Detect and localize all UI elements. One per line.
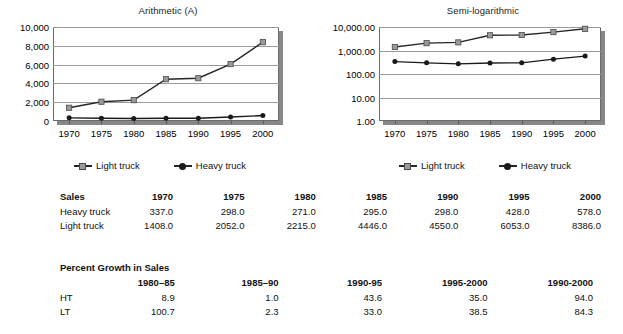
table-row: Light truck1408.02052.02215.04446.04550.… — [60, 219, 623, 234]
data-point-marker — [551, 30, 556, 35]
legend-item-heavy-truck: Heavy truck — [174, 160, 246, 171]
legend-label: Light truck — [96, 160, 140, 171]
chart-semilog-title: Semi-logarithmic — [325, 5, 623, 16]
x-axis-tick-mark — [427, 121, 428, 124]
x-axis-tick-mark — [69, 121, 70, 124]
data-point-marker — [424, 41, 429, 46]
light-truck-marker-icon — [74, 161, 92, 170]
table-cell: 84.3 — [517, 305, 623, 320]
table-corner-header: Sales — [60, 190, 124, 205]
table-cell: 6053.0 — [480, 219, 551, 234]
column-header: 1975 — [195, 190, 266, 205]
column-header: 1970 — [124, 190, 195, 205]
table-cell: 38.5 — [412, 305, 518, 320]
x-axis-tick-label: 2000 — [252, 128, 273, 139]
data-point-marker — [551, 57, 556, 62]
table-cell: 35.0 — [412, 291, 518, 306]
data-point-marker — [228, 62, 233, 67]
row-label: Light truck — [60, 219, 124, 234]
data-point-marker — [583, 26, 588, 31]
column-header: 2000 — [552, 190, 623, 205]
heavy-truck-marker-icon — [174, 161, 192, 170]
x-axis-tick-mark — [231, 121, 232, 124]
y-axis-tick-label: 2,000 — [25, 97, 49, 108]
column-header: 1990 — [409, 190, 480, 205]
data-point-marker — [519, 60, 524, 65]
sales-table: Sales1970197519801985199019952000 Heavy … — [60, 190, 623, 234]
growth-table-caption: Percent Growth in Sales — [60, 262, 169, 273]
data-point-marker — [456, 61, 461, 66]
table-cell: 33.0 — [309, 305, 412, 320]
x-axis-tick-label: 1970 — [59, 128, 80, 139]
data-point-marker — [424, 60, 429, 65]
table-cell: 295.0 — [338, 205, 409, 220]
chart-arithmetic-title: Arithmetic (A) — [0, 5, 320, 16]
table-cell: 2.3 — [205, 305, 309, 320]
data-point-marker — [163, 77, 168, 82]
data-point-marker — [228, 114, 233, 119]
table-cell: 100.7 — [101, 305, 205, 320]
legend-label: Heavy truck — [521, 160, 571, 171]
chart-arithmetic-plot: 02,0004,0006,0008,00010,0001970197519801… — [53, 27, 279, 121]
x-axis-tick-mark — [198, 121, 199, 124]
x-axis-tick-mark — [166, 121, 167, 124]
x-axis-tick-mark — [134, 121, 135, 124]
y-axis-tick-label: 10,000 — [20, 22, 49, 33]
table-cell: 4550.0 — [409, 219, 480, 234]
y-axis-tick-label: 1,000.00 — [338, 45, 375, 56]
x-axis-tick-label: 1990 — [511, 128, 532, 139]
arithmetic-series-layer — [53, 27, 279, 121]
table-cell: 94.0 — [517, 291, 623, 306]
sales-table-body: Heavy truck337.0298.0271.0295.0298.0428.… — [60, 205, 623, 234]
x-axis-tick-mark — [458, 121, 459, 124]
x-axis-tick-label: 1995 — [220, 128, 241, 139]
y-axis-tick-label: 1.00 — [357, 116, 376, 127]
data-point-marker — [196, 76, 201, 81]
data-point-marker — [131, 98, 136, 103]
data-point-marker — [67, 115, 72, 120]
x-axis-tick-label: 1975 — [91, 128, 112, 139]
data-point-marker — [392, 59, 397, 64]
column-header: 1990-95 — [309, 276, 412, 291]
chart-semilog-plot: 1.0010.00100.001,000.0010,000.0019701975… — [379, 27, 601, 121]
x-axis-tick-label: 1975 — [416, 128, 437, 139]
light-truck-marker-icon — [399, 161, 417, 170]
table-cell: 298.0 — [195, 205, 266, 220]
x-axis-tick-label: 1985 — [479, 128, 500, 139]
table-corner-header — [60, 276, 101, 291]
chart-semilog-legend: Light truck Heavy truck — [365, 160, 605, 171]
chart-arithmetic: Arithmetic (A) 02,0004,0006,0008,00010,0… — [0, 0, 320, 180]
y-axis-tick-label: 6,000 — [25, 59, 49, 70]
table-cell: 578.0 — [552, 205, 623, 220]
data-point-marker — [67, 105, 72, 110]
growth-table-head: 1980–851985–901990-951995-20001990-2000 — [60, 276, 623, 291]
data-point-marker — [488, 60, 493, 65]
legend-item-light-truck: Light truck — [399, 160, 465, 171]
table-header-row: 1980–851985–901990-951995-20001990-2000 — [60, 276, 623, 291]
y-axis-tick-label: 10,000.00 — [333, 22, 375, 33]
y-axis-tick-label: 100.00 — [346, 69, 375, 80]
column-header: 1985–90 — [205, 276, 309, 291]
legend-item-heavy-truck: Heavy truck — [499, 160, 571, 171]
x-axis-tick-mark — [263, 121, 264, 124]
y-axis-tick-label: 8,000 — [25, 40, 49, 51]
x-axis-tick-mark — [553, 121, 554, 124]
growth-table-body: HT8.91.043.635.094.0LT100.72.333.038.584… — [60, 291, 623, 320]
y-axis-tick-label: 10.00 — [351, 92, 375, 103]
growth-table: 1980–851985–901990-951995-20001990-2000 … — [60, 276, 623, 320]
legend-label: Light truck — [421, 160, 465, 171]
x-axis-tick-label: 1990 — [188, 128, 209, 139]
data-point-marker — [99, 116, 104, 121]
table-row: HT8.91.043.635.094.0 — [60, 291, 623, 306]
table-cell: 337.0 — [124, 205, 195, 220]
x-axis-tick-mark — [585, 121, 586, 124]
y-axis-tick-label: 4,000 — [25, 78, 49, 89]
table-cell: 1.0 — [205, 291, 309, 306]
table-cell: 298.0 — [409, 205, 480, 220]
data-point-marker — [196, 116, 201, 121]
x-axis-tick-mark — [395, 121, 396, 124]
data-point-marker — [456, 40, 461, 45]
x-axis-tick-label: 1980 — [123, 128, 144, 139]
table-header-row: Sales1970197519801985199019952000 — [60, 190, 623, 205]
series-line-light-truck — [69, 42, 263, 108]
